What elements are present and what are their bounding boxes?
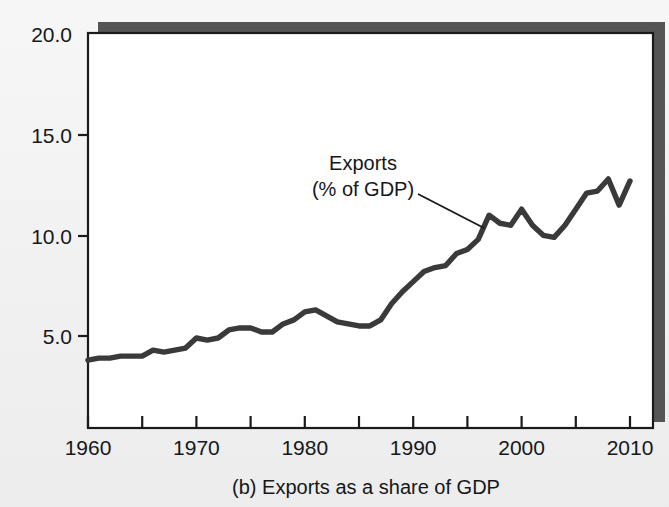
xtick-label-1990: 1990: [390, 436, 437, 459]
exports-share-of-gdp-chart: 20.0 15.0 10.0 5.0 196019701980199020002…: [0, 0, 669, 507]
xtick-label-1970: 1970: [173, 436, 220, 459]
ytick-label-10: 10.0: [31, 225, 72, 248]
x-axis-labels: 196019701980199020002010: [65, 436, 654, 459]
xtick-label-2010: 2010: [607, 436, 654, 459]
xtick-label-1960: 1960: [65, 436, 112, 459]
ytick-label-5: 5.0: [43, 325, 72, 348]
ytick-label-15: 15.0: [31, 124, 72, 147]
xtick-label-1980: 1980: [281, 436, 328, 459]
figure-caption: (b) Exports as a share of GDP: [232, 476, 500, 498]
y-axis-ticks: [78, 135, 88, 336]
figure-panel: 20.0 15.0 10.0 5.0 196019701980199020002…: [0, 0, 669, 507]
ytick-label-20: 20.0: [31, 23, 72, 46]
xtick-label-2000: 2000: [498, 436, 545, 459]
y-axis-labels: 20.0 15.0 10.0 5.0: [31, 23, 72, 348]
annotation-line-1: Exports: [329, 152, 397, 174]
plot-area-background: [88, 33, 653, 428]
annotation-line-2: (% of GDP): [312, 178, 414, 200]
